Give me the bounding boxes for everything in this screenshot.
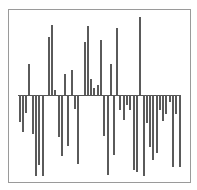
bar	[110, 64, 112, 95]
bar	[19, 95, 21, 122]
bar	[103, 95, 105, 136]
bar	[119, 95, 121, 110]
bar	[126, 95, 128, 105]
bar	[58, 95, 60, 137]
bar	[113, 95, 115, 155]
bar	[149, 95, 151, 147]
bar	[162, 95, 164, 121]
bar	[87, 26, 89, 95]
bar	[61, 95, 63, 156]
bar	[71, 70, 73, 95]
bar	[152, 95, 154, 160]
bar	[139, 17, 141, 95]
bar	[136, 95, 138, 172]
bar	[146, 95, 148, 123]
bar	[54, 90, 56, 95]
bar	[179, 95, 181, 167]
bar	[74, 95, 76, 109]
bar	[97, 85, 99, 95]
bar	[32, 95, 34, 134]
bar	[100, 40, 102, 95]
bar	[143, 95, 145, 176]
bar	[42, 95, 44, 176]
bar	[67, 95, 69, 146]
bar	[107, 95, 109, 175]
bar	[93, 88, 95, 95]
bar	[116, 28, 118, 95]
bar	[165, 95, 167, 114]
bar	[156, 95, 158, 153]
bar	[22, 95, 24, 132]
bar	[159, 95, 161, 110]
bar	[133, 95, 135, 170]
bar	[64, 74, 66, 95]
bar	[129, 95, 131, 110]
bar	[90, 79, 92, 95]
bar	[175, 95, 177, 114]
bar	[77, 95, 79, 164]
bar	[38, 95, 40, 165]
bar	[25, 95, 27, 113]
bar	[123, 95, 125, 120]
bar	[35, 95, 37, 176]
bar	[48, 37, 50, 95]
bar	[51, 25, 53, 95]
bar	[84, 42, 86, 95]
bar	[28, 64, 30, 95]
bar	[169, 95, 171, 102]
bar	[172, 95, 174, 167]
